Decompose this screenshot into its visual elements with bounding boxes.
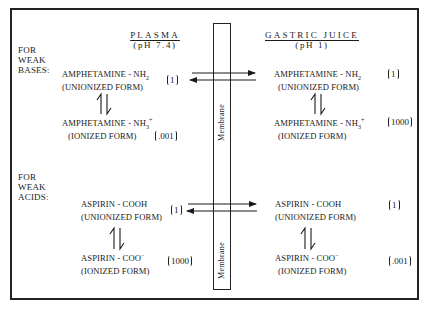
arrows-layer [0, 0, 432, 313]
gastric-acid-equilibrium-icon [301, 228, 315, 249]
acids-transfer-arrows [187, 204, 257, 211]
plasma-acid-equilibrium-icon [110, 228, 124, 249]
plasma-base-equilibrium-icon [97, 94, 111, 114]
bases-transfer-arrows [190, 73, 256, 80]
gastric-base-equilibrium-icon [311, 94, 325, 114]
